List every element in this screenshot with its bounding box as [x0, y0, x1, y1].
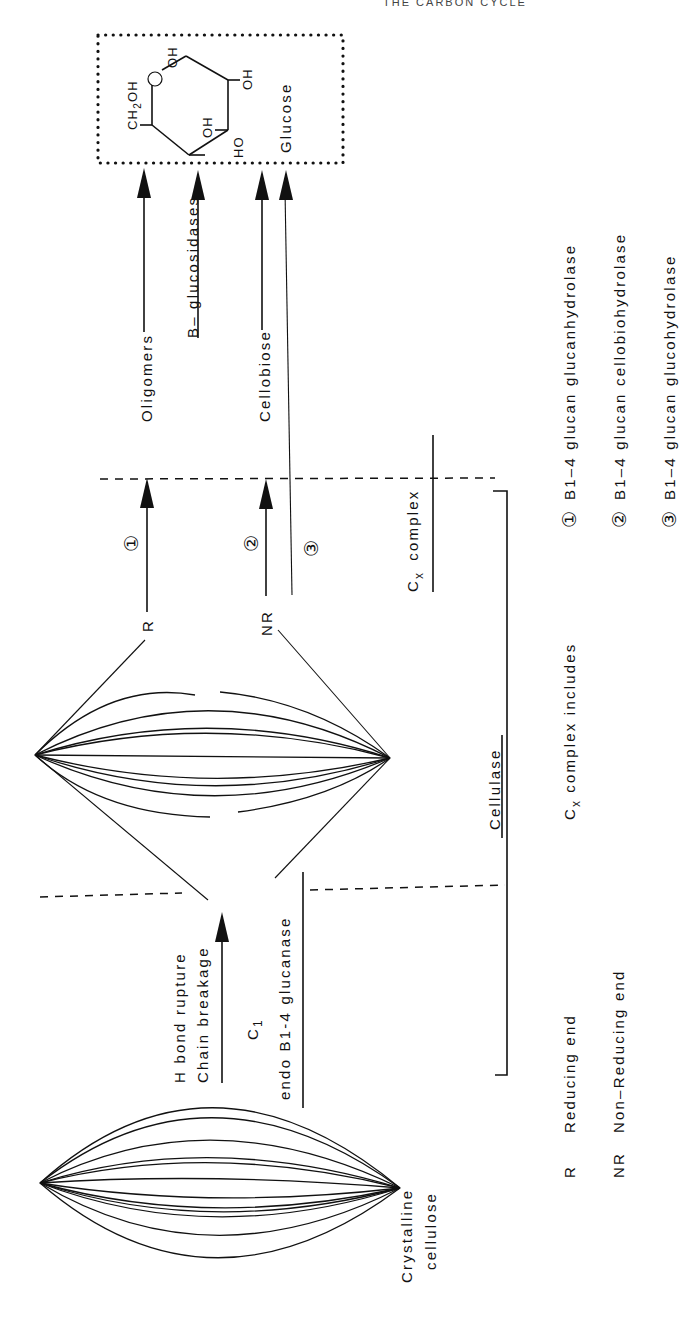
legend-marker-3: ③ — [659, 509, 680, 528]
svg-text:CH2OH: CH2OH — [125, 80, 143, 130]
ch2oh-group: CH2OH — [125, 80, 143, 130]
page-header: THE CARBON CYCLE — [383, 0, 527, 8]
oligomers-label: Oligomers — [138, 334, 155, 422]
cellulase-label: Cellulase — [486, 749, 503, 831]
oh-inner: OH — [200, 116, 215, 138]
marker-3: ③ — [301, 538, 322, 557]
oh-top: OH — [165, 46, 180, 68]
marker-2: ② — [241, 533, 262, 552]
non-reducing-end-label: NR — [258, 610, 275, 636]
crystalline-cellulose-bundle — [40, 1108, 400, 1258]
ho-bottom: HO — [231, 136, 246, 158]
svg-text:C1: C1 — [244, 1018, 265, 1040]
legend-nr-text: Non–Reducing end — [610, 969, 627, 1133]
svg-text:Cxcomplex includes: Cxcomplex includes — [561, 642, 583, 820]
oligomers-arrowhead — [137, 168, 151, 198]
legend-enzyme-2: Β1–4 glucan cellobiohydrolase — [611, 233, 628, 500]
glucose-arrowhead — [279, 170, 293, 200]
c1-arrowhead — [215, 912, 229, 942]
endo-glucanase-label: endo Β1-4 glucanase — [276, 916, 293, 1100]
cellobiose-label: Cellobiose — [256, 330, 273, 422]
legend-nr-abbr: NR — [610, 1152, 627, 1178]
glucose-ring — [140, 56, 240, 155]
dashed-separator-c1 — [40, 893, 182, 897]
cellulose-degradation-diagram: THE CARBON CYCLE Crystalline cellulose H… — [0, 0, 691, 1323]
marker-1: ① — [121, 533, 142, 552]
legend-r-text: Reducing end — [561, 1014, 578, 1133]
svg-text:Cxcomplex: Cxcomplex — [404, 489, 426, 592]
arrow-1-head — [140, 478, 154, 508]
c1-enzyme-label: C1 — [244, 1018, 265, 1040]
oh-right: OH — [240, 68, 255, 90]
dashed-separator-cx — [100, 478, 495, 479]
chain-breakage-label: Chain breakage — [194, 946, 211, 1083]
glucose-label: Glucose — [277, 83, 294, 153]
reducing-end-label: R — [139, 619, 156, 632]
dashed-connector-endo — [310, 885, 505, 890]
cx-complex-label: Cxcomplex — [404, 489, 426, 592]
legend-marker-2: ② — [609, 509, 630, 528]
cellobiose-arrowhead — [255, 170, 269, 200]
legend-enzyme-3: Β1–4 glucan glucohydrolase — [661, 254, 678, 500]
arrow-2-head — [259, 479, 273, 509]
h-bond-rupture-label: H bond rupture — [171, 952, 188, 1083]
arrow-3-to-glucose — [285, 190, 292, 595]
legend-cx-intro: Cxcomplex includes — [561, 642, 583, 820]
legend-marker-1: ① — [559, 509, 580, 528]
degraded-cellulose-bundle — [35, 630, 390, 900]
crystalline-label: Crystalline — [398, 1189, 415, 1283]
legend-enzyme-1: Β1–4 glucan glucanhydrolase — [561, 244, 578, 500]
cellulose-label: cellulose — [422, 1192, 439, 1270]
legend-r-abbr: R — [561, 1165, 578, 1178]
ring-oxygen — [148, 72, 162, 86]
beta-glucosidases-arrowhead — [191, 170, 205, 200]
